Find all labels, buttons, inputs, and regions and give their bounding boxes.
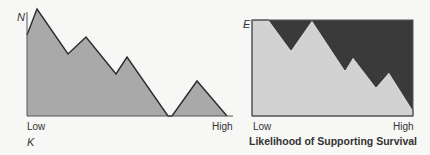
right-chart: E Low High Likelihood of Supporting Surv… — [243, 18, 417, 147]
figure-caption: Likelihood of Supporting Survival — [249, 135, 417, 147]
right-y-label: E — [243, 18, 251, 30]
left-x-low-label: Low — [27, 121, 46, 132]
left-x-label: K — [27, 136, 35, 148]
right-x-high-label: High — [393, 121, 414, 132]
figure-canvas: N Low High K E Low High Likelihood of Su… — [0, 0, 430, 155]
left-chart: N Low High K — [17, 9, 233, 148]
left-x-high-label: High — [212, 121, 233, 132]
left-area-fill — [27, 9, 227, 116]
left-y-label: N — [17, 11, 25, 23]
right-x-low-label: Low — [253, 121, 272, 132]
